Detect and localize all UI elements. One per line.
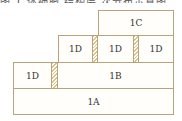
block-1d: 1D bbox=[138, 35, 174, 63]
block-label: 1D bbox=[109, 44, 122, 54]
block-1d: 1D bbox=[97, 35, 134, 63]
block-1c: 1C bbox=[98, 10, 174, 36]
block-label: 1B bbox=[109, 71, 121, 81]
block-1b: 1B bbox=[57, 62, 174, 89]
caption-fragment: 图 1 体细胞 结构层 次分布示意图 bbox=[0, 0, 182, 3]
block-label: 1D bbox=[69, 44, 82, 54]
block-1d: 1D bbox=[13, 62, 52, 89]
block-label: 1A bbox=[87, 97, 99, 107]
block-label: 1D bbox=[26, 71, 39, 81]
block-1a: 1A bbox=[13, 88, 174, 115]
block-label: 1C bbox=[130, 18, 143, 28]
block-1d: 1D bbox=[58, 35, 93, 63]
block-label: 1D bbox=[150, 44, 163, 54]
